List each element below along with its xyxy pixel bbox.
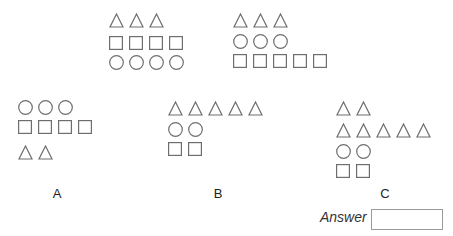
square-row	[18, 120, 98, 135]
circle-row	[233, 34, 293, 49]
square-icon	[38, 120, 52, 134]
option-label-b: B	[214, 186, 223, 201]
square-icon	[78, 120, 92, 134]
answer-input-box[interactable]	[371, 209, 443, 230]
square-icon	[18, 120, 32, 134]
triangle-icon	[416, 123, 430, 137]
triangle-icon	[233, 13, 247, 27]
square-icon	[149, 36, 163, 50]
answer-label: Answer	[320, 209, 367, 225]
triangle-icon	[356, 101, 370, 115]
circle-icon	[58, 100, 72, 114]
circle-icon	[18, 100, 32, 114]
triangle-row	[336, 123, 436, 138]
triangle-icon	[208, 101, 222, 115]
square-row	[168, 142, 208, 157]
square-icon	[313, 54, 327, 68]
square-icon	[109, 36, 123, 50]
circle-icon	[129, 55, 143, 69]
triangle-row	[168, 101, 268, 116]
circle-icon	[356, 144, 370, 158]
triangle-icon	[253, 13, 267, 27]
square-icon	[58, 120, 72, 134]
triangle-icon	[129, 13, 143, 27]
circle-icon	[233, 34, 247, 48]
triangle-icon	[109, 13, 123, 27]
circle-icon	[38, 100, 52, 114]
triangle-icon	[396, 123, 410, 137]
circle-icon	[168, 122, 182, 136]
triangle-icon	[248, 101, 262, 115]
triangle-row	[109, 13, 169, 28]
square-icon	[273, 54, 287, 68]
triangle-icon	[228, 101, 242, 115]
square-icon	[336, 164, 350, 178]
triangle-icon	[18, 145, 32, 159]
circle-icon	[109, 55, 123, 69]
triangle-row	[336, 101, 376, 116]
option-label-c: C	[380, 186, 389, 201]
circle-row	[109, 55, 189, 70]
square-row	[233, 54, 333, 69]
square-icon	[233, 54, 247, 68]
square-icon	[188, 142, 202, 156]
triangle-row	[233, 13, 293, 28]
square-icon	[169, 36, 183, 50]
circle-icon	[253, 34, 267, 48]
triangle-icon	[188, 101, 202, 115]
option-label-a: A	[53, 186, 62, 201]
circle-icon	[188, 122, 202, 136]
circle-icon	[336, 144, 350, 158]
triangle-icon	[356, 123, 370, 137]
triangle-icon	[336, 123, 350, 137]
square-icon	[293, 54, 307, 68]
circle-icon	[273, 34, 287, 48]
circle-icon	[169, 55, 183, 69]
circle-row	[18, 100, 78, 115]
triangle-row	[18, 145, 58, 160]
circle-row	[168, 122, 208, 137]
square-icon	[168, 142, 182, 156]
square-icon	[253, 54, 267, 68]
circle-row	[336, 144, 376, 159]
triangle-icon	[376, 123, 390, 137]
triangle-icon	[168, 101, 182, 115]
square-icon	[129, 36, 143, 50]
triangle-icon	[336, 101, 350, 115]
circle-icon	[149, 55, 163, 69]
triangle-icon	[38, 145, 52, 159]
square-icon	[356, 164, 370, 178]
square-row	[109, 36, 189, 51]
triangle-icon	[273, 13, 287, 27]
square-row	[336, 164, 376, 179]
triangle-icon	[149, 13, 163, 27]
